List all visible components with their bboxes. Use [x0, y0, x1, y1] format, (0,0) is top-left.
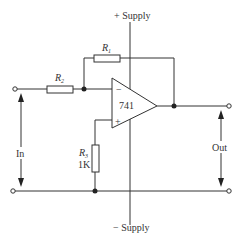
output-junction-dot [172, 104, 177, 109]
input-junction-dot [82, 87, 87, 92]
resistor-r2 [47, 86, 73, 93]
output-terminal-bottom [227, 189, 231, 193]
input-label: In [16, 148, 24, 159]
arrow-down-icon [218, 178, 224, 187]
resistor-r1 [94, 55, 120, 62]
r2-label: R2 [54, 72, 64, 84]
ground-junction-dot [93, 189, 98, 194]
non-inverting-input-sign: + [115, 116, 121, 127]
output-terminal-top [227, 104, 231, 108]
r3-value: 1K [78, 159, 91, 170]
inverting-input-sign: − [116, 84, 122, 95]
resistor-r3 [92, 145, 99, 172]
arrow-up-icon [18, 93, 24, 102]
input-terminal-top [13, 87, 17, 91]
negative-supply-label: − Supply [113, 222, 149, 233]
opamp-label: 741 [119, 100, 134, 111]
r1-label: R1 [101, 42, 111, 54]
positive-supply-label: + Supply [114, 10, 150, 21]
output-label: Out [212, 142, 227, 153]
opamp-circuit-diagram: + Supply R1 R2 − + 741 R3 1K In Out − Su… [0, 0, 243, 240]
r3-label: R3 [78, 147, 88, 159]
arrow-up-icon [218, 110, 224, 119]
arrow-down-icon [18, 178, 24, 187]
input-terminal-bottom [11, 189, 15, 193]
